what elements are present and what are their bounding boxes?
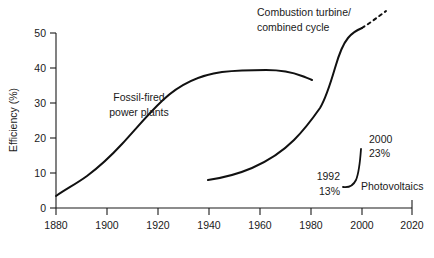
y-tick-labels: 0 10 20 30 40 50	[34, 27, 46, 214]
y-tick-marks	[50, 33, 56, 208]
pv-label: Photovoltaics	[361, 180, 423, 192]
y-tick-label-20: 20	[34, 132, 46, 144]
annotation-photovoltaics: Photovoltaics 1992 13% 2000 23%	[317, 133, 424, 197]
efficiency-trends-chart: 0 10 20 30 40 50 Efficiency (%) 1880 190…	[0, 0, 434, 258]
x-tick-label-1880: 1880	[44, 219, 68, 231]
pv-start-year-label: 1992	[317, 170, 341, 182]
series-line-photovoltaics	[343, 149, 361, 187]
axes-group	[56, 33, 412, 208]
x-tick-marks	[56, 208, 412, 215]
y-tick-label-40: 40	[34, 62, 46, 74]
chart-canvas: 0 10 20 30 40 50 Efficiency (%) 1880 190…	[0, 0, 434, 258]
series-line-fossil-fired-power-plants	[56, 70, 312, 196]
x-tick-label-1960: 1960	[248, 219, 272, 231]
x-tick-label-1900: 1900	[95, 219, 119, 231]
combustion-label-line1: Combustion turbine/	[257, 6, 351, 18]
annotation-combustion-turbine: Combustion turbine/ combined cycle	[257, 6, 351, 33]
fossil-label-line2: power plants	[109, 106, 169, 118]
y-tick-label-30: 30	[34, 97, 46, 109]
x-tick-label-2000: 2000	[350, 219, 374, 231]
pv-end-year-label: 2000	[369, 133, 393, 145]
y-tick-label-50: 50	[34, 27, 46, 39]
x-tick-label-1940: 1940	[197, 219, 221, 231]
x-tick-labels: 1880 1900 1920 1940 1960 1980 2000 2020	[44, 219, 424, 231]
x-tick-label-1980: 1980	[299, 219, 323, 231]
y-axis-title: Efficiency (%)	[7, 88, 19, 152]
y-tick-label-0: 0	[40, 202, 46, 214]
x-tick-label-1920: 1920	[146, 219, 170, 231]
annotation-fossil-fired-power-plants: Fossil-fired power plants	[109, 91, 169, 118]
pv-start-value-label: 13%	[319, 185, 340, 197]
series-line-combustion-turbine-combined-cycle	[208, 28, 362, 180]
pv-end-value-label: 23%	[369, 147, 390, 159]
y-tick-label-10: 10	[34, 167, 46, 179]
series-line-combustion-turbine-dashed-extension	[362, 11, 386, 28]
fossil-label-line1: Fossil-fired	[113, 91, 165, 103]
combustion-label-line2: combined cycle	[257, 21, 330, 33]
x-tick-label-2020: 2020	[400, 219, 424, 231]
